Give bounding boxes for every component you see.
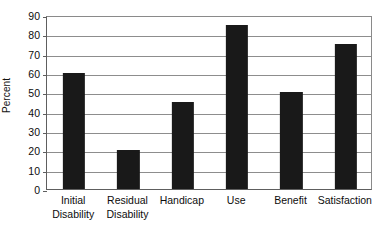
y-tick-label: 60 — [16, 69, 40, 80]
plot-area — [46, 16, 372, 190]
y-tick-label: 70 — [16, 49, 40, 60]
bar-slot — [210, 17, 264, 189]
x-tick-label: Satisfaction — [318, 194, 372, 208]
y-axis-title-text: Percent — [2, 77, 13, 112]
bar[interactable] — [117, 150, 139, 189]
y-tick-label: 40 — [16, 107, 40, 118]
y-tick-mark — [43, 152, 47, 153]
bar-series — [47, 17, 371, 189]
bar-slot — [319, 17, 373, 189]
bar[interactable] — [226, 25, 248, 189]
y-tick-mark — [43, 114, 47, 115]
y-tick-label: 20 — [16, 146, 40, 157]
y-tick-mark — [43, 56, 47, 57]
bar-chart-figure: Percent 0102030405060708090 Initial Disa… — [0, 0, 392, 238]
bar-slot — [156, 17, 210, 189]
y-tick-mark — [43, 133, 47, 134]
y-tick-mark — [43, 17, 47, 18]
bar[interactable] — [172, 102, 194, 189]
bar[interactable] — [280, 92, 302, 189]
bar-slot — [101, 17, 155, 189]
bar[interactable] — [63, 73, 85, 189]
y-tick-label: 10 — [16, 165, 40, 176]
y-axis-title: Percent — [0, 0, 14, 190]
y-tick-label: 90 — [16, 11, 40, 22]
x-tick-label: Benefit — [263, 194, 317, 208]
x-tick-label: Handicap — [155, 194, 209, 208]
x-tick-label: Use — [209, 194, 263, 208]
y-tick-label: 30 — [16, 127, 40, 138]
y-tick-mark — [43, 94, 47, 95]
y-tick-mark — [43, 172, 47, 173]
x-tick-label: Residual Disability — [100, 194, 154, 221]
x-axis-tick-labels: Initial DisabilityResidual DisabilityHan… — [46, 192, 372, 238]
y-tick-mark — [43, 36, 47, 37]
bar-slot — [47, 17, 101, 189]
y-axis-tick-labels: 0102030405060708090 — [16, 16, 40, 190]
y-tick-label: 0 — [16, 185, 40, 196]
bar[interactable] — [335, 44, 357, 189]
x-tick-label: Initial Disability — [46, 194, 100, 221]
y-tick-label: 80 — [16, 30, 40, 41]
y-tick-label: 50 — [16, 88, 40, 99]
bar-slot — [264, 17, 318, 189]
y-tick-mark — [43, 75, 47, 76]
